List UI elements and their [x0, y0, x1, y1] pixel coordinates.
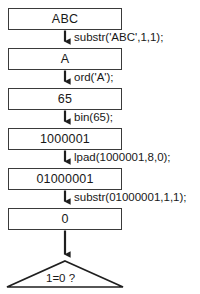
- node-1000001-label: 1000001: [40, 133, 90, 146]
- node-0-label: 0: [61, 213, 68, 226]
- node-abc[interactable]: ABC: [8, 8, 122, 30]
- node-a[interactable]: A: [8, 48, 122, 70]
- edge-label-lpad: lpad(1000001,8,0);: [74, 152, 171, 164]
- node-abc-label: ABC: [52, 13, 78, 26]
- node-65[interactable]: 65: [8, 88, 122, 110]
- flowchart-canvas: ABC A 65 1000001 01000001 0 1=0 ? substr…: [0, 0, 200, 294]
- edge-label-substr-binary: substr(01000001,1,1);: [74, 192, 187, 204]
- decision-label: 1=0 ?: [46, 273, 75, 285]
- node-01000001-label: 01000001: [36, 173, 93, 186]
- edge-label-ord-a: ord('A');: [74, 72, 114, 84]
- node-0[interactable]: 0: [8, 208, 122, 230]
- node-01000001[interactable]: 01000001: [8, 168, 122, 190]
- node-a-label: A: [61, 53, 70, 66]
- edge-label-substr-abc: substr('ABC',1,1);: [74, 32, 163, 44]
- node-1000001[interactable]: 1000001: [8, 128, 122, 150]
- node-65-label: 65: [58, 93, 72, 106]
- edge-label-bin-65: bin(65);: [74, 112, 113, 124]
